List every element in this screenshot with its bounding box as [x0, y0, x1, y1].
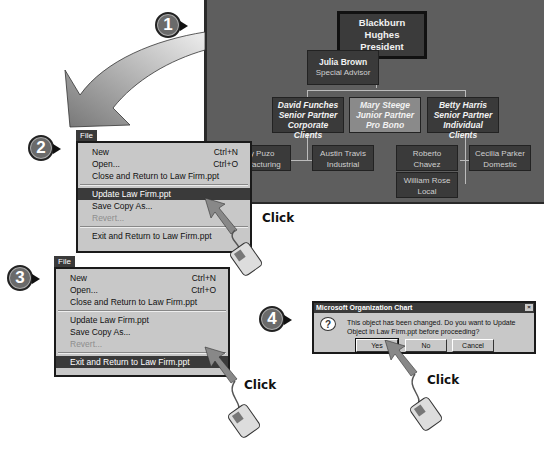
step-3-badge: 3 [7, 265, 33, 291]
close-icon[interactable]: × [525, 304, 533, 311]
file-menu-tab[interactable]: File [76, 130, 97, 141]
mouse-click-icon [383, 340, 453, 440]
question-icon: ? [320, 317, 336, 331]
cancel-button[interactable]: Cancel [452, 339, 494, 352]
org-box-staff-4[interactable]: Cecilia Parker Domestic [469, 145, 531, 171]
org-box-partner-1[interactable]: David Funches Senior Partner Corporate C… [272, 97, 344, 133]
org-box-staff-2[interactable]: Austin Travis Industrial [312, 145, 374, 171]
click-label: Click [427, 373, 459, 387]
org-box-partner-2[interactable]: Mary Steege Junior Partner Pro Bono [349, 97, 421, 133]
menu-item-update[interactable]: Update Law Firm.ppt [56, 314, 228, 326]
menu-item-open[interactable]: Open...Ctrl+O [56, 284, 228, 296]
mouse-click-icon [195, 345, 265, 445]
org-chart-window: Blackburn Hughes President Julia Brown S… [204, 0, 544, 204]
menu-item-close-return[interactable]: Close and Return to Law Firm.ppt [78, 170, 250, 182]
click-label: Click [262, 211, 294, 225]
step-4-badge: 4 [259, 306, 285, 332]
org-box-advisor[interactable]: Julia Brown Special Advisor [307, 50, 379, 85]
dialog-title-bar: Microsoft Organization Chart × [314, 303, 534, 313]
click-label: Click [244, 378, 276, 392]
menu-item-new[interactable]: NewCtrl+N [78, 146, 250, 158]
step-1-badge: 1 [155, 12, 181, 38]
file-menu-tab[interactable]: File [54, 256, 75, 267]
org-box-partner-3[interactable]: Betty Harris Senior Partner Individual C… [427, 97, 499, 133]
menu-item-save-copy[interactable]: Save Copy As... [56, 326, 228, 338]
curved-arrow-icon [55, 30, 210, 130]
step-2-badge: 2 [28, 135, 54, 161]
mouse-click-icon [195, 190, 265, 280]
org-box-staff-3[interactable]: Roberto Chavez International [396, 145, 458, 171]
menu-item-open[interactable]: Open...Ctrl+O [78, 158, 250, 170]
menu-item-close-return[interactable]: Close and Return to Law Firm.ppt [56, 296, 228, 308]
menu-separator [58, 310, 226, 312]
dialog-message: This object has been changed. Do you wan… [347, 318, 535, 336]
org-box-staff-5[interactable]: William Rose Local [396, 172, 458, 198]
menu-separator [80, 184, 248, 186]
